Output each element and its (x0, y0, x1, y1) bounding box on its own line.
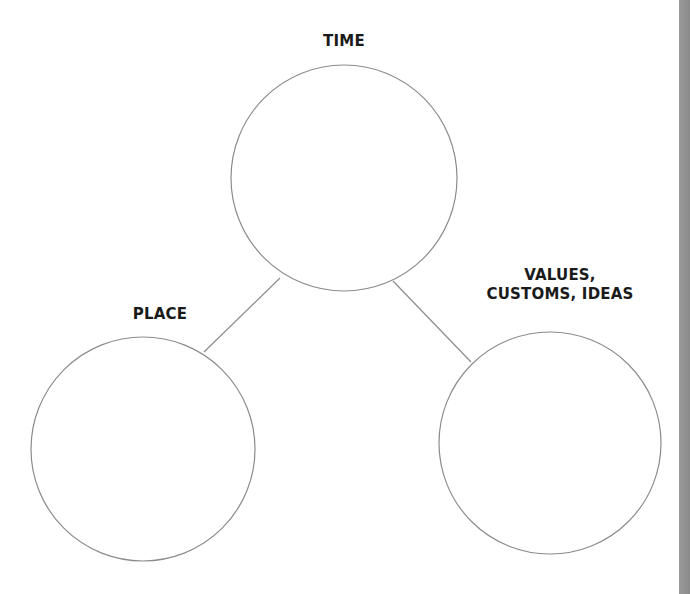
connector-time-place (204, 278, 280, 352)
label-time: TIME (294, 32, 394, 51)
circle-time (231, 65, 457, 291)
circle-values-customs-ideas (439, 332, 661, 554)
label-values-line-1: VALUES, (470, 266, 650, 285)
page-edge-bar (679, 0, 690, 594)
label-values-line-2: CUSTOMS, IDEAS (470, 285, 650, 304)
label-values-customs-ideas: VALUES, CUSTOMS, IDEAS (470, 266, 650, 304)
connector-time-values (393, 281, 471, 362)
label-place: PLACE (110, 305, 210, 324)
circle-place (31, 337, 255, 561)
